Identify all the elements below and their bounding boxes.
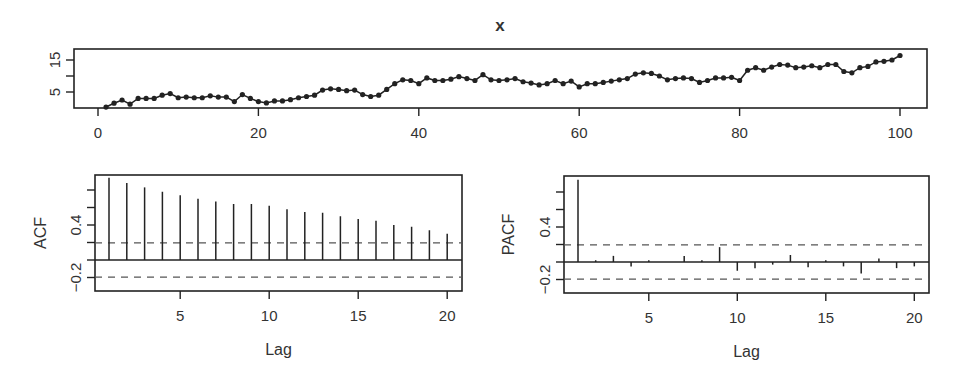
data-point — [448, 77, 453, 82]
data-point — [657, 73, 662, 78]
data-point — [545, 81, 550, 86]
data-point — [665, 77, 670, 82]
chart-figure: x020406080100515−0.20.45101520LagACF−0.2… — [0, 0, 954, 384]
data-point — [392, 81, 397, 86]
data-point — [873, 59, 878, 64]
data-point — [320, 87, 325, 92]
plot-frame — [95, 175, 462, 291]
pacf-plot: −0.20.45101520LagPACF — [500, 176, 929, 360]
data-point — [296, 95, 301, 100]
data-point — [865, 64, 870, 69]
x-axis-label: Lag — [265, 341, 292, 358]
data-point — [240, 92, 245, 97]
data-point — [216, 95, 221, 100]
data-point — [488, 77, 493, 82]
data-point — [232, 99, 237, 104]
x-tick-label: 15 — [817, 309, 834, 326]
data-point — [136, 96, 141, 101]
x-tick-label: 40 — [410, 124, 427, 141]
data-point — [585, 81, 590, 86]
data-point — [328, 86, 333, 91]
data-point — [889, 57, 894, 62]
data-point — [424, 75, 429, 80]
data-point — [697, 80, 702, 85]
y-tick-label: −0.2 — [536, 265, 553, 295]
data-point — [625, 76, 630, 81]
data-point — [472, 78, 477, 83]
data-point — [304, 94, 309, 99]
data-point — [673, 76, 678, 81]
data-point — [248, 96, 253, 101]
x-tick-label: 10 — [729, 309, 746, 326]
data-point — [376, 93, 381, 98]
x-tick-label: 10 — [261, 307, 278, 324]
data-point — [849, 70, 854, 75]
data-point — [745, 68, 750, 73]
y-tick-label: 0.4 — [67, 215, 84, 236]
data-point — [561, 81, 566, 86]
data-point — [721, 75, 726, 80]
data-point — [761, 68, 766, 73]
data-point — [432, 78, 437, 83]
data-point — [689, 76, 694, 81]
data-point — [256, 99, 261, 104]
data-point — [641, 70, 646, 75]
data-point — [312, 93, 317, 98]
data-point — [537, 82, 542, 87]
data-point — [384, 87, 389, 92]
data-point — [272, 98, 277, 103]
data-point — [897, 53, 902, 58]
data-point — [264, 100, 269, 105]
data-point — [344, 88, 349, 93]
x-tick-label: 20 — [906, 309, 923, 326]
data-point — [601, 80, 606, 85]
data-point — [737, 78, 742, 83]
y-tick-label: 5 — [46, 88, 63, 96]
data-point — [809, 63, 814, 68]
chart-title: x — [495, 16, 505, 35]
x-tick-label: 80 — [731, 124, 748, 141]
data-point — [368, 94, 373, 99]
data-point — [633, 71, 638, 76]
data-point — [512, 76, 517, 81]
data-point — [208, 93, 213, 98]
data-point — [224, 95, 229, 100]
data-point — [528, 80, 533, 85]
data-point — [841, 69, 846, 74]
data-point — [609, 79, 614, 84]
data-point — [336, 87, 341, 92]
x-tick-label: 0 — [94, 124, 102, 141]
data-point — [408, 78, 413, 83]
data-point — [833, 62, 838, 67]
data-point — [793, 65, 798, 70]
data-point — [769, 64, 774, 69]
data-point — [456, 74, 461, 79]
data-point — [857, 65, 862, 70]
data-point — [553, 78, 558, 83]
data-point — [817, 65, 822, 70]
data-point — [480, 72, 485, 77]
y-tick-label: 0.4 — [536, 217, 553, 238]
data-point — [103, 104, 108, 109]
data-point — [168, 91, 173, 96]
x-tick-label: 5 — [176, 307, 184, 324]
data-point — [801, 64, 806, 69]
data-point — [777, 62, 782, 67]
data-point — [111, 101, 116, 106]
data-point — [569, 79, 574, 84]
data-point — [288, 97, 293, 102]
data-point — [593, 81, 598, 86]
x-axis-label: Lag — [733, 343, 760, 360]
data-point — [192, 95, 197, 100]
data-point — [753, 65, 758, 70]
x-tick-label: 20 — [439, 307, 456, 324]
data-point — [713, 75, 718, 80]
data-point — [280, 98, 285, 103]
data-point — [825, 62, 830, 67]
data-point — [160, 93, 165, 98]
data-point — [176, 95, 181, 100]
data-point — [617, 77, 622, 82]
data-point — [681, 75, 686, 80]
data-point — [400, 77, 405, 82]
data-point — [649, 71, 654, 76]
